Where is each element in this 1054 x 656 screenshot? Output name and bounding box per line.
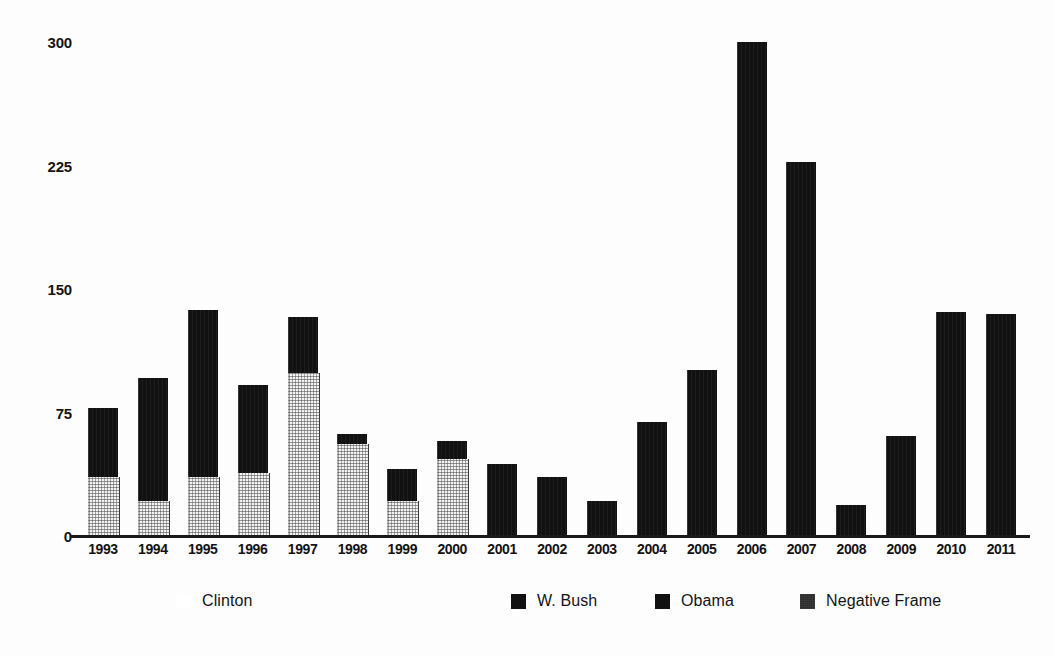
- legend-label: Obama: [681, 592, 734, 610]
- bar-group[interactable]: [337, 42, 367, 536]
- bar-group[interactable]: [687, 42, 717, 536]
- legend-item-clinton[interactable]: Clinton: [176, 592, 253, 610]
- bar-segment-negative-frame: [188, 477, 220, 536]
- bar-segment-total: [836, 505, 866, 536]
- stacked-bar[interactable]: [587, 501, 617, 536]
- legend-label: W. Bush: [537, 592, 597, 610]
- stacked-bar[interactable]: [288, 317, 318, 536]
- stacked-bar[interactable]: [836, 505, 866, 536]
- bar-group[interactable]: [138, 42, 168, 536]
- legend-item-w-bush[interactable]: W. Bush: [511, 592, 597, 610]
- bar-segment-total: [637, 422, 667, 536]
- x-tick-label: 2000: [427, 541, 477, 557]
- x-tick-label: 2001: [477, 541, 527, 557]
- x-tick-label: 2006: [727, 541, 777, 557]
- x-tick-label: 1996: [228, 541, 278, 557]
- bar-segment-total: [587, 501, 617, 536]
- x-tick-label: 2003: [577, 541, 627, 557]
- bar-group[interactable]: [288, 42, 318, 536]
- y-tick-label: 225: [14, 157, 72, 174]
- x-tick-label: 2005: [677, 541, 727, 557]
- bar-segment-total: [188, 310, 218, 476]
- legend-label: Negative Frame: [826, 592, 941, 610]
- bar-group[interactable]: [88, 42, 118, 536]
- legend-swatch-icon: [655, 594, 670, 609]
- x-tick-label: 2002: [527, 541, 577, 557]
- bar-segment-total: [288, 317, 318, 373]
- stacked-bar[interactable]: [337, 434, 367, 536]
- bar-segment-total: [88, 408, 118, 477]
- x-tick-label: 2007: [777, 541, 827, 557]
- bar-segment-total: [687, 370, 717, 536]
- legend-swatch-icon: [800, 594, 815, 609]
- bar-segment-total: [437, 441, 467, 459]
- bar-segment-total: [936, 312, 966, 536]
- y-tick-label: 300: [14, 34, 72, 51]
- bar-group[interactable]: [437, 42, 467, 536]
- bar-group[interactable]: [886, 42, 916, 536]
- stacked-bar[interactable]: [687, 370, 717, 536]
- bar-segment-total: [886, 436, 916, 536]
- x-tick-label: 1998: [327, 541, 377, 557]
- stacked-bar[interactable]: [188, 310, 218, 536]
- bar-segment-negative-frame: [337, 444, 369, 536]
- bar-segment-total: [487, 464, 517, 536]
- bar-segment-negative-frame: [88, 477, 120, 536]
- y-tick-label: 75: [14, 404, 72, 421]
- stacked-bar[interactable]: [986, 314, 1016, 536]
- bar-group[interactable]: [188, 42, 218, 536]
- bar-group[interactable]: [238, 42, 268, 536]
- bar-group[interactable]: [387, 42, 417, 536]
- bar-segment-total: [337, 434, 367, 444]
- bar-group[interactable]: [737, 42, 767, 536]
- bar-group[interactable]: [786, 42, 816, 536]
- stacked-bar[interactable]: [637, 422, 667, 536]
- stacked-bar[interactable]: [487, 464, 517, 536]
- stacked-bar[interactable]: [437, 441, 467, 537]
- x-tick-label: 1994: [128, 541, 178, 557]
- bar-segment-total: [986, 314, 1016, 536]
- legend-label: Clinton: [202, 592, 253, 610]
- x-tick-label: 2009: [876, 541, 926, 557]
- stacked-bar[interactable]: [387, 469, 417, 537]
- bar-group[interactable]: [836, 42, 866, 536]
- x-tick-label: 1999: [377, 541, 427, 557]
- x-tick-label: 2011: [976, 541, 1026, 557]
- bar-chart-figure: 075150225300 199319941995199619971998199…: [0, 0, 1054, 656]
- y-tick-label: 0: [14, 528, 72, 545]
- y-axis-tick-labels: 075150225300: [0, 0, 72, 656]
- stacked-bar[interactable]: [138, 378, 168, 536]
- legend-item-obama[interactable]: Obama: [655, 592, 734, 610]
- bar-segment-negative-frame: [238, 473, 270, 536]
- bar-group[interactable]: [537, 42, 567, 536]
- stacked-bar[interactable]: [537, 477, 567, 536]
- stacked-bar[interactable]: [88, 408, 118, 536]
- stacked-bar[interactable]: [238, 385, 268, 536]
- bar-segment-total: [387, 469, 417, 502]
- legend-item-negative-frame[interactable]: Negative Frame: [800, 592, 941, 610]
- stacked-bar[interactable]: [886, 436, 916, 536]
- bar-segment-total: [737, 42, 767, 536]
- chart-legend: ClintonW. BushObamaNegative Frame: [0, 592, 1054, 632]
- bar-group[interactable]: [587, 42, 617, 536]
- x-tick-label: 2008: [826, 541, 876, 557]
- bar-group[interactable]: [936, 42, 966, 536]
- bar-group[interactable]: [637, 42, 667, 536]
- x-tick-label: 2010: [926, 541, 976, 557]
- bar-group[interactable]: [986, 42, 1016, 536]
- bar-segment-negative-frame: [138, 501, 170, 536]
- stacked-bar[interactable]: [737, 42, 767, 536]
- bar-segment-negative-frame: [437, 459, 469, 536]
- bar-group[interactable]: [487, 42, 517, 536]
- x-tick-label: 1997: [278, 541, 328, 557]
- bar-segment-total: [786, 162, 816, 536]
- stacked-bar[interactable]: [786, 162, 816, 536]
- bar-segment-negative-frame: [288, 373, 320, 536]
- legend-swatch-icon: [176, 594, 191, 609]
- x-axis-line: [70, 535, 1030, 538]
- y-tick-label: 150: [14, 281, 72, 298]
- stacked-bar[interactable]: [936, 312, 966, 536]
- legend-swatch-icon: [511, 594, 526, 609]
- plot-area: [78, 42, 1026, 536]
- x-tick-label: 1995: [178, 541, 228, 557]
